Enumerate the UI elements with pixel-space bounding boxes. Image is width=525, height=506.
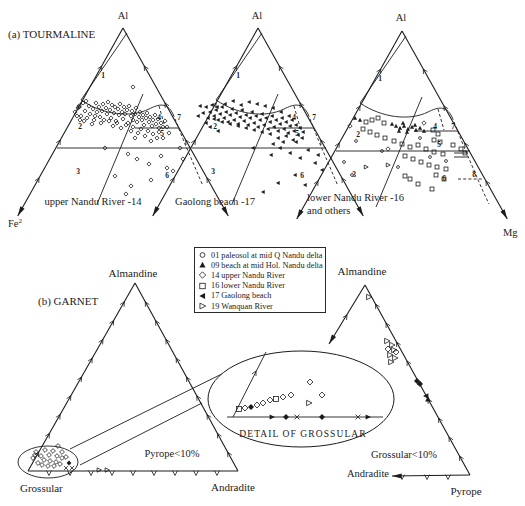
vertex-label-andradite-left: Andradite <box>211 481 255 493</box>
caption-lower-nandu-line1: lower Nandu River -16 <box>307 192 404 203</box>
legend-item: 14 upper Nandu River <box>197 270 325 280</box>
panel-a-title: (a) TOURMALINE <box>8 28 96 41</box>
vertex-label-almandine-right: Almandine <box>338 265 387 277</box>
caption-gaolong: Gaolong beach -17 <box>175 196 255 207</box>
region-number: 7 <box>451 122 455 131</box>
region-number: 7 <box>177 113 181 122</box>
fe-superscript: 2 <box>19 217 23 225</box>
legend-item-label: 01 paleosol at mid Q Nandu delta <box>211 251 323 260</box>
legend-item: 17 Gaolong beach <box>197 291 325 301</box>
region-number: 6 <box>300 171 304 180</box>
region-number: 7 <box>312 113 316 122</box>
region-number: 6 <box>442 174 446 183</box>
legend-item-label: 19 Wanquan River <box>211 302 273 311</box>
region-number: 2 <box>356 130 360 139</box>
annotation-pyrope-lt10: Pyrope<10% <box>145 448 200 459</box>
open-triangle-right-icon <box>197 301 209 311</box>
region-number: 2 <box>213 122 217 131</box>
panel-b-title: (b) GARNET <box>38 295 98 308</box>
region-number: 1 <box>101 71 105 80</box>
region-number: 5 <box>295 129 299 138</box>
caption-upper-nandu: upper Nandu River -14 <box>44 196 142 207</box>
axis-label-al-3: Al <box>396 12 407 23</box>
axis-label-al-2: Al <box>252 10 263 21</box>
axis-label-al-1: Al <box>118 10 129 21</box>
series-points-garnet-overview <box>31 444 110 473</box>
legend-item: 09 beach at mid Hol. Nandu delta <box>197 260 325 270</box>
fe-text: Fe <box>8 218 19 229</box>
vertex-label-andradite-right: Andradite <box>347 468 389 479</box>
axis-label-fe2: Fe2 <box>8 217 23 229</box>
ternary-tourmaline-lower-nandu-river-and-others: 12345678 <box>297 31 508 219</box>
region-number: 2 <box>78 122 82 131</box>
open-square-icon <box>197 281 209 291</box>
figure: 1234567123456712345678 (a) TOURMALINE Al… <box>0 0 525 506</box>
region-number: 3 <box>76 167 80 176</box>
legend-item: 16 lower Nandu River <box>197 281 325 291</box>
region-number: 3 <box>352 170 356 179</box>
detail-of-grossular-label: DETAIL OF GROSSULAR <box>239 429 366 439</box>
filled-triangle-up-icon <box>197 260 209 270</box>
legend-item-label: 16 lower Nandu River <box>211 281 285 290</box>
region-number: 1 <box>378 74 382 83</box>
annotation-grossular-lt10: Grossular<10% <box>371 449 437 460</box>
open-circle-icon <box>197 250 209 260</box>
legend: 01 paleosol at mid Q Nandu delta09 beach… <box>194 247 326 313</box>
open-diamond-icon <box>197 270 209 280</box>
region-number: 8 <box>472 170 476 179</box>
ternary-tourmaline-gaolong-beach: 1234567 <box>153 28 364 216</box>
legend-item-label: 17 Gaolong beach <box>211 291 271 300</box>
ternary-tourmaline-upper-nandu-river: 1234567 <box>18 28 229 216</box>
region-number: 3 <box>211 167 215 176</box>
vertex-label-pyrope: Pyrope <box>450 485 481 497</box>
vertex-label-almandine-left: Almandine <box>109 267 158 279</box>
legend-item-label: 14 upper Nandu River <box>211 271 285 280</box>
filled-triangle-left-icon <box>197 291 209 301</box>
series-points-tourmaline-gaolong-beach <box>196 99 324 194</box>
axis-label-mg: Mg <box>503 227 518 238</box>
caption-lower-nandu-line2: and others <box>307 205 350 216</box>
vertex-label-grossular: Grossular <box>20 482 63 494</box>
region-number: 6 <box>165 171 169 180</box>
legend-item: 19 Wanquan River <box>197 301 325 311</box>
region-number: 1 <box>236 71 240 80</box>
legend-item: 01 paleosol at mid Q Nandu delta <box>197 250 325 260</box>
series-points-tourmaline-lower-nandu-river-and-others <box>343 116 467 191</box>
legend-item-label: 09 beach at mid Hol. Nandu delta <box>211 261 323 270</box>
